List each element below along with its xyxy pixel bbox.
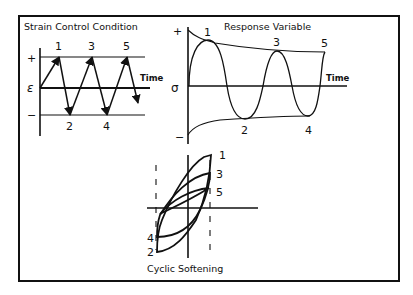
hysteresis-label-4: 4 bbox=[147, 232, 154, 245]
strain-triangle-wave bbox=[40, 57, 138, 115]
hysteresis-loop-panel: 1 3 5 4 2 Cyclic Softening bbox=[147, 149, 258, 274]
strain-plus-sign: + bbox=[27, 52, 36, 65]
hysteresis-label-1: 1 bbox=[219, 149, 226, 162]
hysteresis-label-2: 2 bbox=[147, 246, 154, 259]
strain-epsilon-symbol: ε bbox=[27, 81, 34, 95]
response-time-label: Time bbox=[326, 73, 350, 83]
response-variable-panel: Response Variable + σ − Time 1 3 5 2 4 bbox=[171, 21, 350, 144]
strain-minus-sign: − bbox=[27, 109, 36, 122]
hysteresis-label-3: 3 bbox=[216, 168, 223, 181]
response-trough-label-4: 4 bbox=[305, 124, 312, 137]
hysteresis-loops bbox=[157, 155, 211, 252]
strain-peak-label-1: 1 bbox=[55, 40, 62, 53]
lower-envelope-curve bbox=[188, 116, 310, 135]
strain-trough-label-4: 4 bbox=[103, 120, 110, 133]
response-peak-label-1: 1 bbox=[204, 26, 211, 39]
response-minus-sign: − bbox=[175, 131, 184, 144]
response-peak-label-3: 3 bbox=[273, 36, 280, 49]
hysteresis-caption: Cyclic Softening bbox=[147, 263, 223, 274]
hysteresis-loop-3-4 bbox=[157, 173, 210, 237]
response-peak-label-5: 5 bbox=[321, 37, 328, 50]
strain-trough-label-2: 2 bbox=[66, 120, 73, 133]
response-trough-label-2: 2 bbox=[241, 124, 248, 137]
response-sigma-symbol: σ bbox=[171, 81, 179, 95]
strain-peak-label-5: 5 bbox=[123, 40, 130, 53]
response-plus-sign: + bbox=[173, 25, 182, 38]
response-panel-title: Response Variable bbox=[224, 21, 311, 32]
strain-control-panel: Strain Control Condition + ε − Time 1 3 … bbox=[24, 21, 164, 136]
strain-time-label: Time bbox=[140, 73, 164, 83]
strain-panel-title: Strain Control Condition bbox=[24, 21, 138, 32]
hysteresis-label-5: 5 bbox=[216, 186, 223, 199]
hysteresis-loop-5 bbox=[160, 188, 209, 214]
strain-peak-label-3: 3 bbox=[88, 40, 95, 53]
cyclic-softening-diagram: Strain Control Condition + ε − Time 1 3 … bbox=[0, 0, 413, 295]
